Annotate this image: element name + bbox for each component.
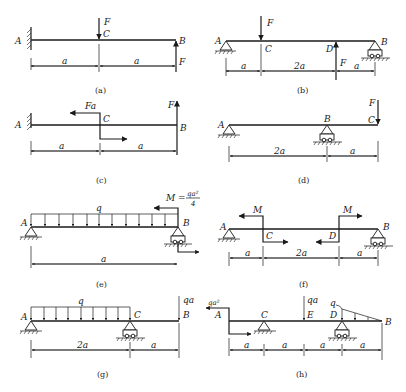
point-label-c: C	[265, 44, 272, 54]
point-label-b: B	[382, 222, 390, 232]
moment-label: M	[252, 205, 263, 215]
panel-f: M C M D A B a 2a a (f)	[218, 205, 393, 289]
dim-label: a	[350, 146, 355, 156]
load-intensity-label: q	[78, 296, 84, 306]
panel-b: F C D F A B a 2a a (b)	[214, 16, 390, 95]
caption-h: (h)	[296, 370, 307, 379]
dim-label: a	[320, 340, 325, 350]
moment-arrow-icon	[154, 208, 178, 227]
moment-label: M =	[165, 193, 186, 203]
dim-label: a	[244, 340, 249, 350]
point-label-a: A	[214, 36, 222, 46]
point-label-e: E	[306, 310, 314, 320]
dim-label: 2a	[273, 146, 285, 156]
distributed-load-arrows-icon	[31, 214, 165, 226]
point-label-b: B	[323, 114, 331, 124]
triangular-load-arrows-icon	[342, 309, 368, 320]
dim-label: a	[282, 340, 287, 350]
point-label-a: A	[20, 312, 28, 322]
caption-e: (e)	[96, 280, 107, 289]
point-label-a: A	[14, 36, 22, 46]
caption-c: (c)	[96, 176, 107, 185]
dim-label: 2a	[295, 248, 307, 258]
dim-label: a	[245, 248, 250, 258]
caption-d: (d)	[298, 176, 309, 185]
dim-label: a	[241, 61, 246, 71]
point-label-a: A	[14, 120, 22, 130]
pin-support-icon	[223, 125, 235, 134]
moment-value-numerator: qa²	[187, 190, 199, 198]
roller-support-icon	[369, 41, 381, 50]
dim-label: a	[138, 141, 143, 151]
panel-g: q qa B C A 2a a (g)	[20, 295, 194, 379]
moment-label: Fa	[84, 101, 96, 111]
dim-label: a	[134, 56, 139, 66]
dim-label: a	[357, 248, 362, 258]
moment-label: M	[342, 205, 353, 215]
roller-support-icon	[321, 125, 333, 134]
roller-support-icon	[336, 321, 348, 330]
dim-label: a	[59, 141, 64, 151]
point-label-c: C	[266, 231, 273, 241]
point-label-c: C	[103, 29, 110, 39]
point-label-a: A	[214, 310, 222, 320]
distributed-load-arrows-icon	[31, 307, 130, 320]
pin-support-icon	[258, 321, 270, 330]
force-label: F	[368, 98, 376, 108]
pin-support-icon	[25, 321, 37, 330]
force-label: qa	[183, 295, 194, 305]
force-label: F	[178, 57, 186, 67]
force-label: F	[103, 17, 111, 27]
panel-c: Fa C A B F a a (c)	[14, 100, 187, 185]
force-label: F	[266, 18, 274, 28]
panel-a: F C A B F a a (a)	[14, 17, 186, 95]
moment-couple-icon	[70, 113, 100, 125]
point-label-b: B	[178, 36, 186, 46]
panel-d: F C B A 2a a (d)	[217, 98, 378, 185]
point-label-d: D	[329, 310, 337, 320]
dim-label: a	[62, 56, 67, 66]
moment-value-denominator: 4	[190, 200, 195, 208]
beam-diagrams-figure: F C A B F a a (a) F C D F	[0, 0, 406, 392]
panel-e: q M = qa² 4 A B a (e)	[20, 190, 200, 289]
load-leader-line	[336, 305, 342, 309]
point-label-c: C	[368, 115, 375, 125]
force-label: F	[167, 100, 175, 110]
point-label-c: C	[261, 310, 268, 320]
force-label: qa	[307, 295, 318, 305]
caption-a: (a)	[95, 86, 106, 95]
point-label-d: D	[325, 44, 333, 54]
triangular-load-icon	[342, 309, 382, 321]
point-label-b: B	[380, 37, 388, 47]
point-label-b: B	[384, 317, 392, 327]
point-label-b: B	[182, 310, 190, 320]
moment-couple-icon	[339, 216, 362, 229]
point-label-a: A	[219, 222, 227, 232]
roller-support-icon	[124, 321, 136, 330]
point-label-a: A	[217, 120, 225, 130]
point-label-b: B	[179, 123, 187, 133]
point-label-c: C	[103, 114, 110, 124]
force-label: F	[339, 58, 347, 68]
point-label-d: D	[328, 231, 336, 241]
dim-label: a	[151, 340, 156, 350]
pin-support-icon	[25, 227, 37, 236]
dim-label: 2a	[76, 340, 88, 350]
caption-g: (g)	[97, 370, 108, 379]
load-intensity-label: q	[96, 203, 102, 213]
pin-support-icon	[220, 41, 232, 50]
point-label-c: C	[134, 310, 141, 320]
panel-h: qa² A C qa E D q B	[206, 295, 392, 379]
point-label-a: A	[20, 218, 28, 228]
point-label-b: B	[182, 218, 190, 228]
dim-label: a	[354, 61, 359, 71]
moment-couple-icon	[239, 216, 263, 229]
caption-f: (f)	[299, 280, 308, 289]
dim-label: a	[101, 254, 106, 264]
moment-label: qa²	[208, 299, 220, 307]
caption-b: (b)	[297, 86, 308, 95]
dim-label: a	[360, 340, 365, 350]
load-intensity-label: q	[330, 298, 336, 308]
dim-label: 2a	[293, 61, 305, 71]
roller-support-icon	[172, 227, 184, 236]
